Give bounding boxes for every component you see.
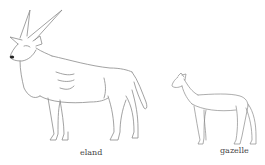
eland-label: eland (80, 148, 102, 157)
animal-illustration (0, 0, 265, 165)
eland-nose (10, 55, 14, 58)
eland-drawing (10, 10, 147, 140)
gazelle-label: gazelle (220, 146, 249, 155)
gazelle-drawing (172, 73, 256, 144)
